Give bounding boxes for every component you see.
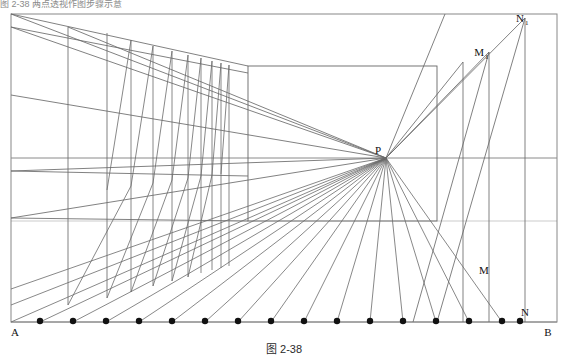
ground-dot: [235, 318, 241, 324]
ground-dot: [466, 318, 472, 324]
perspective-diagram: P A B M N M 1 N 1: [0, 0, 568, 362]
figure-caption: 图 2-38: [0, 340, 568, 356]
label-measuring-point-m: M: [479, 264, 489, 276]
ground-dot: [268, 318, 274, 324]
label-n1-letter: N: [516, 12, 524, 24]
ground-dot: [517, 318, 523, 324]
ground-dot: [499, 318, 505, 324]
label-point-a: A: [11, 326, 19, 338]
ground-dot: [136, 318, 142, 324]
label-point-b: B: [544, 326, 551, 338]
left-wall-plane: [11, 14, 248, 305]
label-m1-letter: M: [474, 46, 484, 58]
ground-dot: [103, 318, 109, 324]
ground-fan-lines: [11, 158, 502, 322]
ground-dot: [400, 318, 406, 324]
label-near-point-n: N: [521, 306, 529, 318]
right-measuring-diagonals: [413, 18, 525, 322]
label-vanishing-point: P: [375, 144, 381, 156]
ground-dot: [37, 318, 43, 324]
label-measuring-point-m1: M 1: [474, 46, 489, 61]
ground-dot: [169, 318, 175, 324]
ground-dot: [334, 318, 340, 324]
ground-dot: [433, 318, 439, 324]
right-verticals: [463, 18, 525, 322]
label-n1-subscript: 1: [525, 19, 529, 27]
ground-dot: [367, 318, 373, 324]
ground-dot: [70, 318, 76, 324]
ground-dot: [202, 318, 208, 324]
ground-division-dots: [37, 318, 523, 324]
upper-right-rays: [386, 14, 525, 158]
label-m1-subscript: 1: [485, 53, 489, 61]
ground-dot: [301, 318, 307, 324]
